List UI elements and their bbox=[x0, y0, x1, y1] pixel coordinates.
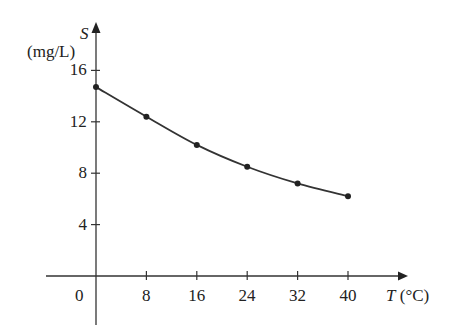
origin-label: 0 bbox=[75, 287, 84, 304]
data-curve bbox=[96, 87, 348, 196]
data-point bbox=[295, 180, 301, 186]
y-tick-label: 12 bbox=[70, 113, 87, 130]
data-point bbox=[244, 164, 250, 170]
data-point bbox=[143, 114, 149, 120]
x-tick-label: 16 bbox=[188, 287, 205, 304]
x-tick-label: 32 bbox=[289, 287, 306, 304]
x-axis-label: T (°C) bbox=[386, 287, 429, 304]
x-tick-label: 24 bbox=[239, 287, 256, 304]
x-tick-label: 8 bbox=[142, 287, 151, 304]
data-point bbox=[194, 142, 200, 148]
data-point bbox=[93, 84, 99, 90]
x-axis-arrow-icon bbox=[398, 272, 408, 281]
y-tick-label: 8 bbox=[78, 164, 87, 181]
y-axis-label-unit: (mg/L) bbox=[27, 43, 75, 60]
data-point bbox=[345, 193, 351, 199]
y-axis-arrow-icon bbox=[92, 22, 101, 33]
x-axis-label-var: T bbox=[386, 286, 395, 305]
x-axis-label-unit: (°C) bbox=[400, 286, 429, 305]
x-tick-label: 40 bbox=[339, 287, 356, 304]
y-axis-label-var: S bbox=[80, 25, 89, 42]
y-tick-label: 4 bbox=[78, 216, 87, 233]
y-tick-label: 16 bbox=[70, 61, 87, 78]
